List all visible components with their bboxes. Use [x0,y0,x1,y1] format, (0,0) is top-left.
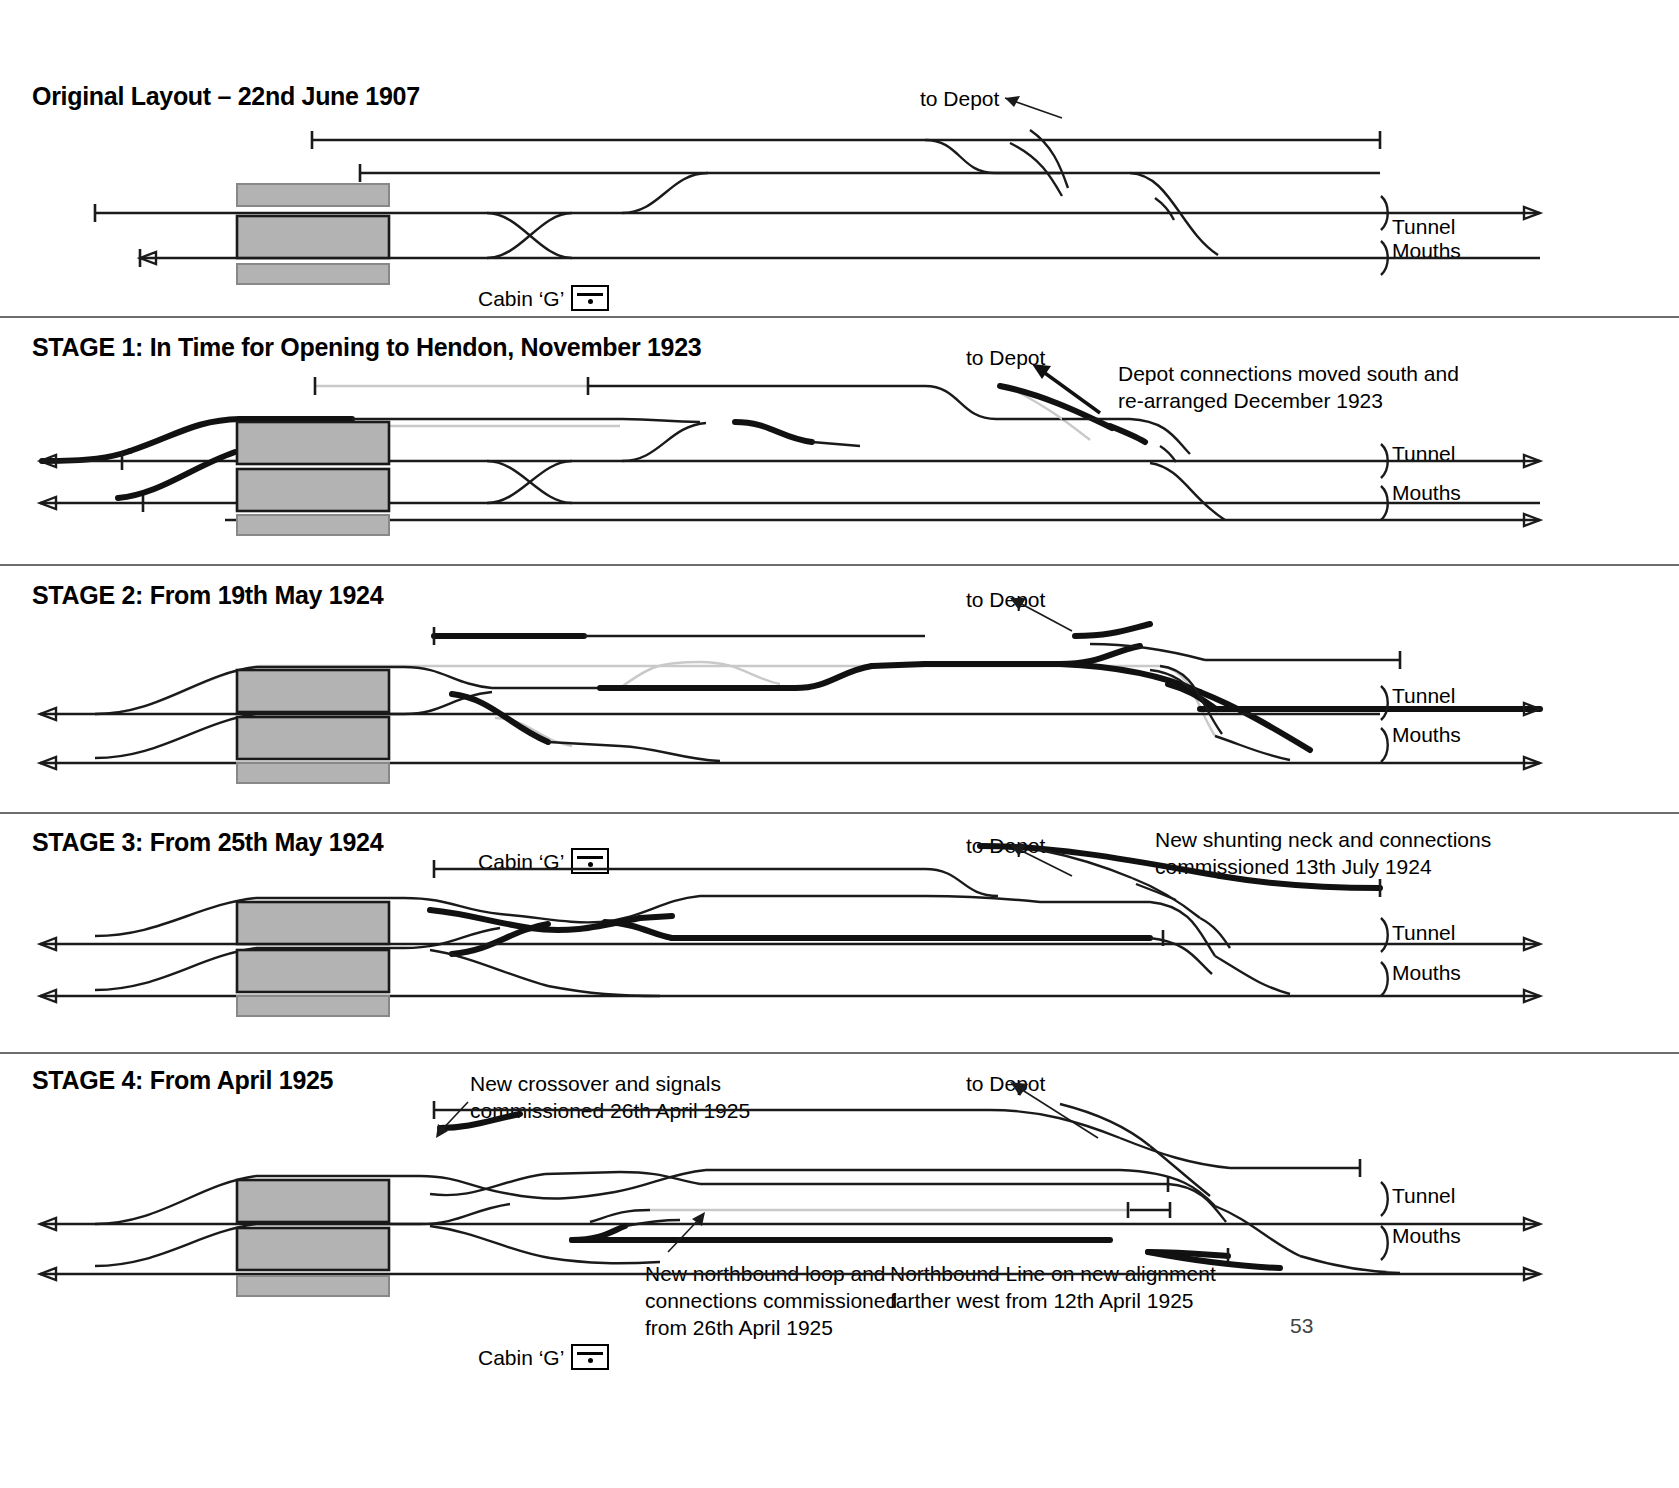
track-plan-stage-3 [0,814,1679,1054]
track-plan-stage-1 [0,318,1679,566]
panel-stage-1: STAGE 1: In Time for Opening to Hendon, … [0,318,1679,566]
panel-stage-3: STAGE 3: From 25th May 1924 to Depot New… [0,814,1679,1054]
panel-original-layout: Original Layout – 22nd June 1907 to Depo… [0,0,1679,318]
track-plan-stage-2 [0,566,1679,814]
panel-stage-2: STAGE 2: From 19th May 1924 to Depot Tun… [0,566,1679,814]
track-plan-stage-4 [0,1052,1679,1488]
diagram-page: Original Layout – 22nd June 1907 to Depo… [0,0,1679,1488]
panel-stage-4: STAGE 4: From April 1925 New crossover a… [0,1052,1679,1488]
track-plan-original [0,0,1679,318]
